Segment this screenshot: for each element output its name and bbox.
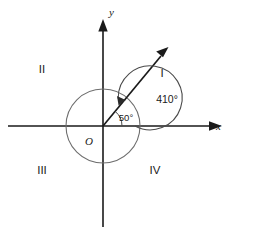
y-axis-arrowhead	[98, 19, 107, 32]
total-rotation-label: 410°	[156, 93, 178, 105]
coordinate-plane-figure: x y O I II III IV 50° 410°	[0, 0, 272, 227]
quadrant-label-i: I	[160, 67, 163, 79]
terminal-ray-arrowhead	[156, 47, 168, 57]
origin-label: O	[85, 135, 93, 147]
y-axis-label: y	[108, 6, 114, 18]
figure-canvas: x y O I II III IV 50° 410°	[0, 0, 272, 227]
x-axis-label: x	[215, 120, 221, 132]
quadrant-label-iv: IV	[150, 164, 161, 176]
reference-angle-label: 50°	[119, 112, 134, 123]
quadrant-label-iii: III	[37, 164, 47, 176]
quadrant-label-ii: II	[39, 63, 45, 75]
